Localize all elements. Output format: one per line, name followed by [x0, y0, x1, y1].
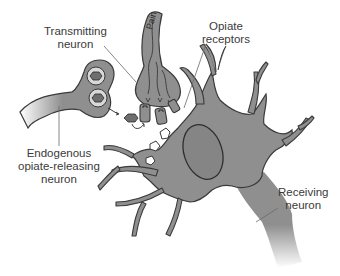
transmitting-neuron: Pain [135, 11, 180, 125]
label-endogenous-opiate-releasing-neuron: Endogenous opiate-releasing neuron [18, 147, 100, 186]
label-line: Receiving [278, 186, 329, 199]
label-line: receptors [202, 33, 250, 46]
label-receiving-neuron: Receiving neuron [278, 186, 329, 212]
label-line: Endogenous [18, 147, 100, 160]
label-line: neuron [278, 199, 329, 212]
label-line: neuron [18, 173, 100, 186]
label-line: Opiate [202, 20, 250, 33]
label-line: Transmitting [44, 25, 107, 38]
receiving-neuron [98, 44, 314, 268]
label-transmitting-neuron: Transmitting neuron [44, 25, 107, 51]
label-opiate-receptors: Opiate receptors [202, 20, 250, 46]
released-opiate-molecule [108, 108, 144, 129]
label-line: neuron [44, 38, 107, 51]
transmitting-axon [135, 12, 180, 107]
label-line: opiate-releasing [18, 160, 100, 173]
